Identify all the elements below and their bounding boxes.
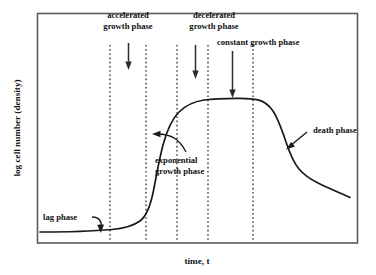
accelerated-phase-label-line2: growth phase [103, 21, 152, 31]
decelerated-arrow-head [192, 71, 198, 80]
exponential-phase-label-line1: exponential [155, 155, 198, 165]
exponential-phase-label-line2: growth phase [155, 166, 204, 176]
phase-arrows [125, 43, 235, 98]
accelerated-phase-label-line1: accelerated [107, 10, 149, 20]
constant-arrow-head [229, 90, 235, 99]
accelerated-arrow-head [125, 62, 131, 71]
plot-frame [38, 14, 358, 244]
phase-boundary-lines [110, 45, 253, 242]
x-axis-label: time, t [185, 256, 211, 266]
lag-phase-label: lag phase [43, 212, 77, 222]
y-axis-label: log cell number (density) [12, 79, 22, 176]
constant-phase-label: constant growth phase [217, 37, 300, 47]
decelerated-phase-label-line1: decelerated [193, 10, 235, 20]
growth-curve-figure: accelerated growth phase decelerated gro… [0, 0, 376, 275]
exponential-arrow-head [152, 131, 161, 137]
death-phase-label: death phase [313, 125, 357, 135]
exponential-arrow [152, 131, 186, 152]
decelerated-phase-label-line2: growth phase [189, 21, 238, 31]
death-arrow [286, 132, 307, 150]
lag-arrow-head [97, 225, 104, 234]
